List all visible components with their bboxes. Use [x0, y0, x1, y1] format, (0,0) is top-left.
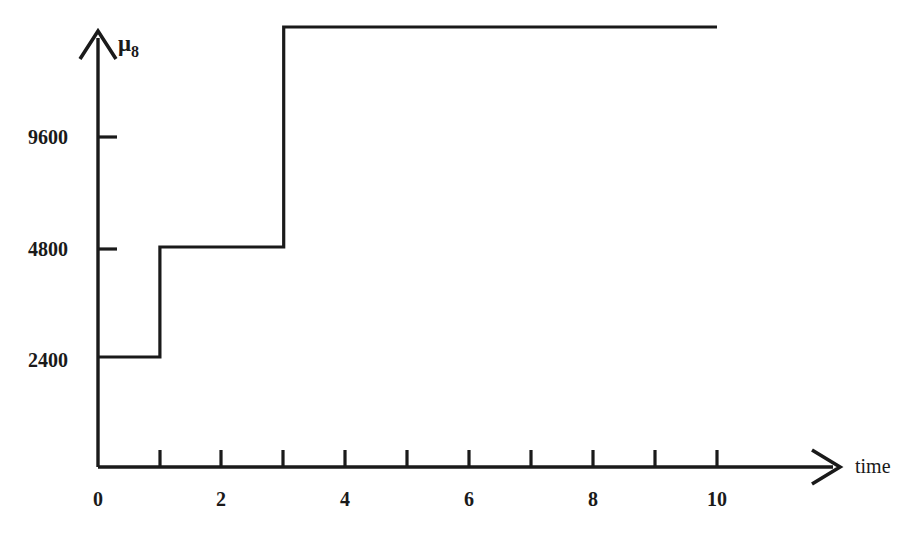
step-chart: [0, 0, 910, 537]
y-tick-label-9600: 9600: [28, 127, 68, 147]
x-tick-label-4: 4: [340, 489, 350, 509]
x-axis-label: time: [855, 456, 891, 476]
x-tick-label-0: 0: [93, 489, 103, 509]
y-axis-label-subscript: 8: [131, 43, 139, 60]
x-tick-label-8: 8: [588, 489, 598, 509]
x-tick-label-10: 10: [707, 489, 727, 509]
y-tick-label-4800: 4800: [28, 239, 68, 259]
step-function-curve: [98, 27, 717, 357]
x-tick-label-2: 2: [216, 489, 226, 509]
y-tick-label-2400: 2400: [28, 350, 68, 370]
y-axis-label: μ8: [118, 32, 139, 60]
chart-page: μ8 time 9600 4800 2400 0 2 4 6 8 10: [0, 0, 910, 537]
x-tick-label-6: 6: [464, 489, 474, 509]
y-axis-label-base: μ: [118, 31, 131, 56]
